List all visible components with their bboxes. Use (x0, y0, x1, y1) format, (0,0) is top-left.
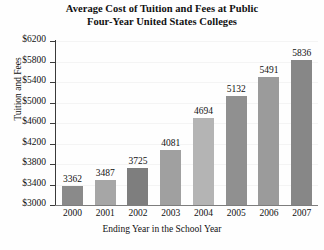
y-tick-label: $3400 (0, 178, 46, 188)
y-tick-mark (50, 82, 55, 83)
y-tick-label: $3800 (0, 157, 46, 167)
gridline (56, 41, 318, 42)
y-tick-label: $4600 (0, 116, 46, 126)
bar: 3362 (62, 186, 83, 205)
chart-title-line-2: Four-Year United States Colleges (0, 16, 324, 29)
y-tick-mark (50, 103, 55, 104)
gridline (56, 62, 318, 63)
x-axis-title: Ending Year in the School Year (0, 224, 324, 234)
bar-chart: Average Cost of Tuition and Fees at Publ… (0, 0, 324, 250)
y-tick-label: $6200 (0, 34, 46, 44)
bar-value-label: 4694 (194, 106, 213, 116)
x-axis-line (55, 205, 318, 206)
bar-value-label: 3362 (63, 174, 82, 184)
y-axis-line (55, 40, 56, 206)
y-axis-title: Tuition and Fees (13, 34, 23, 144)
y-tick-label: $3000 (0, 198, 46, 208)
x-tick-label: 2007 (282, 208, 322, 218)
bar-value-label: 3725 (128, 156, 147, 166)
y-tick-mark (50, 62, 55, 63)
y-tick-mark (50, 164, 55, 165)
bar-value-label: 3487 (96, 168, 115, 178)
plot-area: 33623487372540814694513254915836 (56, 41, 318, 205)
y-tick-mark (50, 41, 55, 42)
bar-value-label: 4081 (161, 138, 180, 148)
y-tick-label: $5800 (0, 55, 46, 65)
bar: 3725 (127, 168, 148, 205)
bar-value-label: 5836 (292, 48, 311, 58)
bar: 5132 (226, 96, 247, 205)
bar: 5491 (258, 77, 279, 205)
bar: 3487 (95, 180, 116, 205)
y-tick-mark (50, 185, 55, 186)
y-tick-mark (50, 123, 55, 124)
chart-title: Average Cost of Tuition and Fees at Publ… (0, 3, 324, 28)
bar: 5836 (291, 60, 312, 205)
bar: 4081 (160, 150, 181, 205)
y-tick-mark (50, 205, 55, 206)
bar-value-label: 5132 (227, 84, 246, 94)
y-tick-label: $4200 (0, 137, 46, 147)
bar-value-label: 5491 (259, 65, 278, 75)
bar: 4694 (193, 118, 214, 205)
y-tick-label: $5000 (0, 96, 46, 106)
chart-title-line-1: Average Cost of Tuition and Fees at Publ… (0, 3, 324, 16)
y-tick-mark (50, 144, 55, 145)
y-tick-label: $5400 (0, 75, 46, 85)
